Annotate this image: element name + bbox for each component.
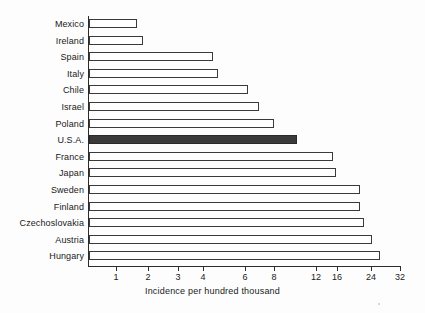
bar-row: Austria xyxy=(0,232,425,248)
x-axis-tick xyxy=(316,266,317,271)
x-axis-tick-label: 1 xyxy=(103,272,129,283)
bar-category-label: Mexico xyxy=(55,16,84,32)
x-axis-tick-label: 8 xyxy=(261,272,287,283)
bar-chart: MexicoIrelandSpainItalyChileIsraelPoland… xyxy=(0,0,425,313)
bar-row: France xyxy=(0,149,425,165)
bar-category-label: France xyxy=(55,149,84,165)
bar xyxy=(89,235,372,244)
bar xyxy=(89,85,248,94)
bar xyxy=(89,69,218,78)
bar xyxy=(89,102,259,111)
bar-category-label: Ireland xyxy=(56,33,84,49)
bar-category-label: Poland xyxy=(55,116,84,132)
bar-row: Japan xyxy=(0,165,425,181)
bar-category-label: U.S.A. xyxy=(57,132,84,148)
x-axis-tick-label: 24 xyxy=(358,272,384,283)
bar-row: U.S.A. xyxy=(0,132,425,148)
bar-row: Mexico xyxy=(0,16,425,32)
bar-row: Finland xyxy=(0,199,425,215)
x-axis-tick xyxy=(203,266,204,271)
bar-category-label: Czechoslovakia xyxy=(20,215,84,231)
bar xyxy=(89,168,336,177)
x-axis-tick-label: 4 xyxy=(190,272,216,283)
x-axis-tick-label: 6 xyxy=(232,272,258,283)
bar-row: Spain xyxy=(0,49,425,65)
page-speck xyxy=(378,303,380,305)
x-axis-tick xyxy=(337,266,338,271)
bar xyxy=(89,152,333,161)
bar xyxy=(89,218,364,227)
bar xyxy=(89,36,143,45)
x-axis-tick xyxy=(400,266,401,271)
bar xyxy=(89,52,213,61)
bar xyxy=(89,202,360,211)
x-axis-tick xyxy=(178,266,179,271)
bar-highlighted xyxy=(89,135,297,144)
bar-category-label: Sweden xyxy=(51,182,84,198)
bar-row: Hungary xyxy=(0,248,425,264)
x-axis-tick-label: 32 xyxy=(387,272,413,283)
bar xyxy=(89,251,380,260)
bar-row: Poland xyxy=(0,116,425,132)
x-axis-tick xyxy=(274,266,275,271)
bar-category-label: Italy xyxy=(67,66,84,82)
bar-row: Italy xyxy=(0,66,425,82)
bar xyxy=(89,185,360,194)
x-axis-tick xyxy=(148,266,149,271)
bar-category-label: Israel xyxy=(61,99,84,115)
x-axis-tick-label: 2 xyxy=(135,272,161,283)
x-axis-tick xyxy=(371,266,372,271)
bar-category-label: Hungary xyxy=(49,248,84,264)
bar-category-label: Chile xyxy=(63,82,84,98)
bar-row: Sweden xyxy=(0,182,425,198)
bar xyxy=(89,119,274,128)
x-axis-tick xyxy=(245,266,246,271)
bar-category-label: Japan xyxy=(59,165,84,181)
bar-category-label: Spain xyxy=(60,49,84,65)
bar-category-label: Austria xyxy=(55,232,84,248)
x-axis-tick xyxy=(116,266,117,271)
bar xyxy=(89,19,137,28)
x-axis-title: Incidence per hundred thousand xyxy=(0,286,425,296)
plot-area: MexicoIrelandSpainItalyChileIsraelPoland… xyxy=(0,0,425,313)
bar-row: Czechoslovakia xyxy=(0,215,425,231)
bar-row: Ireland xyxy=(0,33,425,49)
x-axis-tick-label: 3 xyxy=(165,272,191,283)
bar-row: Israel xyxy=(0,99,425,115)
bar-row: Chile xyxy=(0,82,425,98)
bar-category-label: Finland xyxy=(54,199,84,215)
x-axis-tick-label: 16 xyxy=(324,272,350,283)
